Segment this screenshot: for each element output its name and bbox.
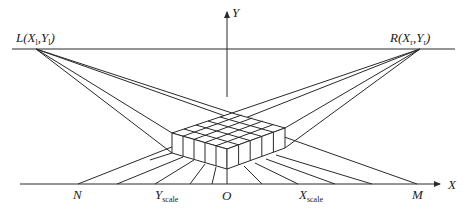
y-scale-label: Yscale bbox=[155, 187, 179, 204]
stereo-projection-diagram: Y X L(Xl,Yl) R(Xr,Yr) N Yscale O Xscale … bbox=[0, 0, 467, 211]
x-axis-label: X bbox=[447, 177, 457, 192]
y-axis-label: Y bbox=[232, 5, 241, 20]
labels: Y X L(Xl,Yl) R(Xr,Yr) N Yscale O Xscale … bbox=[15, 5, 457, 204]
left-camera-label: L(Xl,Yl) bbox=[15, 30, 55, 47]
origin-label: O bbox=[222, 188, 232, 203]
point-n-label: N bbox=[72, 187, 83, 202]
right-camera-label: R(Xr,Yr) bbox=[389, 30, 430, 47]
grid-block bbox=[150, 113, 285, 184]
ground-lines-right bbox=[244, 155, 372, 184]
point-m-label: M bbox=[411, 187, 424, 202]
rays-from-right-camera bbox=[78, 49, 420, 184]
x-scale-label: Xscale bbox=[298, 187, 323, 204]
